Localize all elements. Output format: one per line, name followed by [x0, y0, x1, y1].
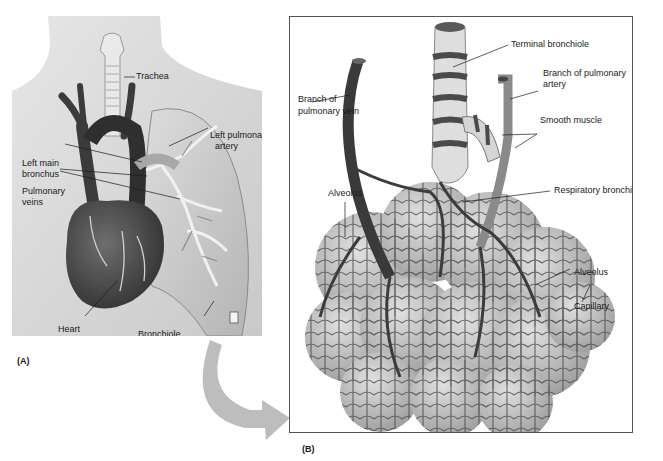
label-left-pulmonary-artery-line2: artery	[215, 141, 238, 152]
label-bronchiole: Bronchiole	[138, 329, 181, 336]
label-pulmonary-veins-line1: Pulmonary	[22, 186, 65, 197]
panel-b-alveoli-detail: Terminal bronchiole Branch of pulmonary …	[289, 16, 633, 433]
label-alveolus-right: Alveolus	[574, 267, 608, 278]
label-smooth-muscle: Smooth muscle	[540, 115, 602, 126]
panel-a-label: (A)	[17, 356, 30, 366]
panel-b-label: (B)	[302, 444, 315, 454]
label-branch-pulmonary-vein-line1: Branch of	[298, 94, 337, 105]
label-branch-pulmonary-vein-line2: pulmonary vein	[298, 106, 359, 117]
label-capillary: Capillary	[574, 301, 609, 312]
alveoli-drawing	[290, 17, 632, 432]
label-branch-pulmonary-artery-line2: artery	[543, 79, 566, 90]
panel-a-chest-illustration: Trachea Left pulmonary artery Left main …	[12, 16, 262, 336]
label-heart: Heart	[58, 324, 80, 335]
label-left-main-bronchus-line2: bronchus	[22, 169, 59, 180]
label-left-pulmonary-artery-line1: Left pulmonary	[210, 130, 262, 141]
label-pulmonary-veins-line2: veins	[22, 197, 43, 208]
label-left-main-bronchus-line1: Left main	[22, 158, 59, 169]
label-terminal-bronchiole: Terminal bronchiole	[511, 39, 589, 50]
label-alveolus-left: Alveolus	[328, 188, 362, 199]
label-trachea: Trachea	[136, 71, 169, 82]
label-branch-pulmonary-artery-line1: Branch of pulmonary	[543, 68, 626, 79]
label-respiratory-bronchiole: Respiratory bronchiole	[554, 185, 633, 196]
